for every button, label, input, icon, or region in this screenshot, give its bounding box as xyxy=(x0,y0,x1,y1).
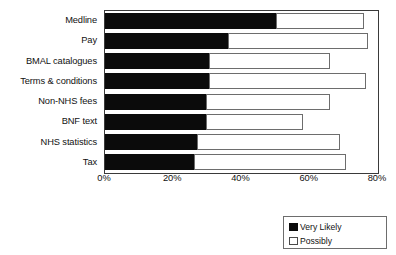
legend-label: Very Likely xyxy=(300,222,342,232)
bar-segment-very-likely xyxy=(105,114,206,130)
bar-segment-very-likely xyxy=(105,13,276,29)
bar-row xyxy=(105,31,378,51)
bar-segment-very-likely xyxy=(105,134,197,150)
x-axis-tick-label: 20% xyxy=(163,173,182,183)
y-axis-category-labels: MedlinePayBMAL cataloguesTerms & conditi… xyxy=(0,10,101,172)
bar-segment-very-likely xyxy=(105,73,209,89)
x-axis-tick-label: 60% xyxy=(299,173,318,183)
x-axis-tick-label: 0% xyxy=(97,173,110,183)
bar-row xyxy=(105,112,378,132)
bar-segment-possibly xyxy=(197,134,340,150)
y-axis-category-label: Pay xyxy=(81,30,97,50)
bar-segment-very-likely xyxy=(105,94,206,110)
bar-chart: MedlinePayBMAL cataloguesTerms & conditi… xyxy=(0,0,396,255)
bar-row xyxy=(105,52,378,72)
y-axis-category-label: Tax xyxy=(83,152,97,172)
bar-segment-possibly xyxy=(194,154,346,170)
bar-row xyxy=(105,11,378,31)
legend-swatch-icon xyxy=(289,223,298,231)
y-axis-category-label: Terms & conditions xyxy=(20,71,97,91)
bar-segment-very-likely xyxy=(105,53,209,69)
legend-swatch-icon xyxy=(289,237,298,245)
bar-segment-possibly xyxy=(206,114,303,130)
bar-row xyxy=(105,133,378,153)
bar-segment-possibly xyxy=(276,13,365,29)
y-axis-category-label: BMAL catalogues xyxy=(26,51,97,71)
legend-label: Possibly xyxy=(300,236,332,246)
legend-item: Very Likely xyxy=(289,220,386,233)
bar-segment-possibly xyxy=(209,53,330,69)
chart-legend: Very LikelyPossibly xyxy=(283,216,387,249)
x-axis-tick-label: 80% xyxy=(368,173,387,183)
y-axis-category-label: Medline xyxy=(65,10,97,30)
bar-row xyxy=(105,153,378,173)
bar-segment-possibly xyxy=(206,94,331,110)
bar-row xyxy=(105,92,378,112)
bar-segment-possibly xyxy=(209,73,366,89)
y-axis-category-label: Non-NHS fees xyxy=(38,91,97,111)
y-axis-category-label: NHS statistics xyxy=(41,132,97,152)
x-axis-tick-labels: 0%20%40%60%80% xyxy=(104,173,377,189)
bars-container xyxy=(105,11,378,173)
x-axis-tick-label: 40% xyxy=(231,173,250,183)
y-axis-category-label: BNF text xyxy=(62,111,97,131)
bar-segment-possibly xyxy=(228,33,368,49)
bar-row xyxy=(105,72,378,92)
plot-area xyxy=(104,10,379,174)
legend-item: Possibly xyxy=(289,234,386,247)
bar-segment-very-likely xyxy=(105,33,228,49)
bar-segment-very-likely xyxy=(105,154,194,170)
